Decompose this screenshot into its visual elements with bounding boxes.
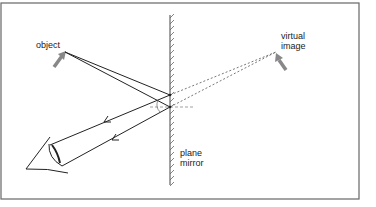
object-arrow [54, 51, 66, 67]
virtual-image-arrow [275, 53, 286, 70]
virtual-image-label: virtual image [281, 31, 306, 51]
plane-mirror-label: plane mirror [180, 148, 204, 168]
reflection-point-lower [169, 106, 172, 109]
virtual-rays [170, 52, 276, 107]
plane-mirror-diagram [0, 0, 376, 207]
eye [26, 137, 68, 173]
plane-mirror [170, 14, 174, 186]
object-label: object [36, 40, 60, 50]
incident-rays [65, 52, 170, 107]
reflected-rays [50, 95, 170, 166]
reflection-point-upper [169, 94, 172, 97]
